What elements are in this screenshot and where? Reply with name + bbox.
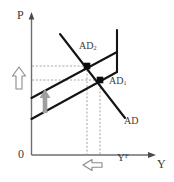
ad1-subscript: 1: [123, 79, 126, 86]
yf-superscript: F: [125, 152, 129, 159]
output-down-arrow-shape: [83, 160, 102, 171]
full-employment-output-label: YF: [117, 152, 129, 163]
equilibrium-point-e2[interactable]: [84, 63, 91, 70]
ad-as-diagram-svg: [0, 0, 174, 182]
ad2-curve-label: AD2: [79, 41, 97, 51]
y-axis-label: P: [17, 9, 24, 21]
equilibrium-point-e1[interactable]: [97, 77, 104, 84]
output-down-arrow: [83, 160, 102, 171]
ad1-base: AD: [109, 75, 123, 86]
ad-curve-label: AD: [124, 116, 138, 126]
origin-label: 0: [18, 148, 24, 160]
x-axis-label: Y: [157, 158, 166, 170]
x-axis-arrowhead: [148, 152, 156, 158]
price-level-up-arrow-shape: [13, 67, 26, 89]
ad2-subscript: 2: [93, 44, 96, 51]
ad1-curve-label: AD1: [109, 76, 127, 86]
diagram-canvas: P 0 Y YF AD AD1 AD2: [0, 0, 174, 182]
y-axis-arrowhead: [29, 12, 35, 20]
yf-base: Y: [117, 151, 125, 163]
ad2-base: AD: [79, 40, 93, 51]
price-level-up-arrow: [13, 67, 26, 89]
